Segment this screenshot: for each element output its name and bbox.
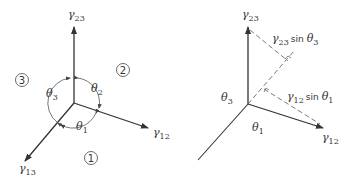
theta3-label: θ3 <box>221 91 233 106</box>
theta3-arc <box>48 78 70 123</box>
gamma12-vector <box>248 104 323 128</box>
theta1-label: θ1 <box>76 120 88 135</box>
gamma12-label: γ12 <box>153 126 170 141</box>
left-diagram: γ23 γ12 γ13 θ1 θ2 θ3 3 2 1 <box>16 8 170 177</box>
theta2-label: θ2 <box>91 82 103 97</box>
gamma23-label: γ23 <box>68 8 85 23</box>
right-diagram: γ23 γ12 θ3 θ1 γ23sinθ3 γ12sinθ1 <box>198 8 339 160</box>
surface-tension-diagram: γ23 γ12 γ13 θ1 θ2 θ3 3 2 1 γ <box>0 0 349 177</box>
svg-text:2: 2 <box>120 65 126 76</box>
svg-text:1: 1 <box>88 153 94 164</box>
right-angle-mark-upper <box>285 56 291 59</box>
region-2-marker: 2 <box>117 64 130 77</box>
region-3-marker: 3 <box>16 74 29 87</box>
gamma23-label: γ23 <box>242 8 259 23</box>
gamma13-line <box>198 104 248 160</box>
gamma12-vector <box>74 103 148 128</box>
theta1-label: θ1 <box>252 121 264 136</box>
gamma23-sin-theta3-label: γ23sinθ3 <box>272 32 318 47</box>
gamma12-sin-theta1-label: γ12sinθ1 <box>287 90 333 105</box>
svg-text:3: 3 <box>19 75 25 86</box>
region-1-marker: 1 <box>85 152 98 165</box>
gamma13-label: γ13 <box>19 162 36 177</box>
theta3-label: θ3 <box>46 87 58 102</box>
gamma12-label: γ12 <box>322 131 339 146</box>
